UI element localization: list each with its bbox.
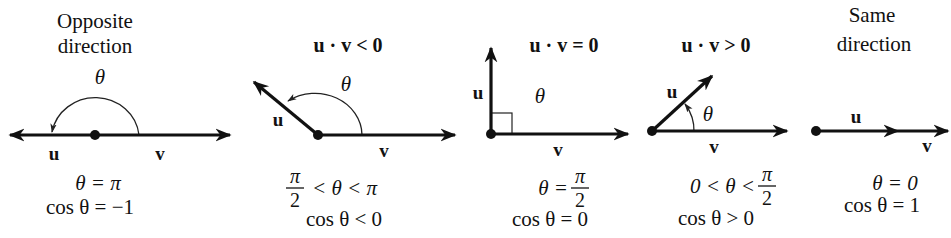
v-label: v [155, 143, 165, 164]
angle-arc [288, 93, 362, 135]
fraction-denominator: 2 [290, 189, 300, 211]
v-label: v [379, 140, 389, 161]
origin-dot [313, 130, 323, 140]
cosine-equation: cos θ = 0 [512, 207, 588, 231]
panel-heading-line2: direction [837, 32, 912, 56]
angle-arc [685, 104, 694, 132]
u-label: u [49, 143, 60, 164]
theta-label: θ [535, 84, 545, 108]
angle-between-vectors-diagram: Opposite direction θ u v θ = π cos θ = −… [0, 0, 951, 238]
dot-product-condition: u · v < 0 [313, 34, 382, 56]
v-label: v [922, 135, 932, 156]
dot-product-condition: u · v = 0 [529, 34, 598, 56]
angle-inequality: 0 < θ < [690, 174, 755, 198]
angle-arc [52, 98, 139, 135]
panel-obtuse-angle: u · v < 0 θ u v π 2 < θ < π cos θ < 0 [254, 34, 455, 231]
panel-opposite-direction: Opposite direction θ u v θ = π cos θ = −… [10, 9, 230, 219]
origin-dot [647, 126, 657, 136]
panel-right-angle: u · v = 0 θ u v θ = π 2 cos θ = 0 [473, 34, 628, 231]
angle-equation: θ = π [75, 171, 121, 195]
v-label: v [553, 139, 563, 160]
u-label: u [851, 106, 862, 127]
panel-heading-line2: direction [58, 34, 133, 58]
cosine-inequality: cos θ > 0 [678, 206, 754, 230]
cosine-equation: cos θ = −1 [46, 195, 134, 219]
fraction-denominator: 2 [762, 187, 772, 209]
fraction-numerator: π [762, 163, 773, 185]
v-label: v [709, 136, 719, 157]
theta-label: θ [341, 72, 351, 96]
origin-dot [486, 129, 496, 139]
cosine-equation: cos θ = 1 [844, 193, 920, 217]
panel-acute-angle: u · v > 0 θ u v 0 < θ < π 2 cos θ > 0 [647, 34, 787, 230]
theta-label: θ [95, 65, 105, 89]
vector-u-arrow [254, 82, 318, 135]
fraction-numerator: π [575, 165, 586, 187]
dot-product-condition: u · v > 0 [681, 34, 750, 56]
u-label: u [667, 81, 678, 102]
angle-inequality: < θ < π [312, 176, 377, 200]
angle-equation: θ = [538, 176, 568, 200]
fraction-numerator: π [290, 165, 301, 187]
u-label: u [273, 109, 284, 130]
panel-heading-line1: Same [849, 3, 896, 27]
u-label: u [473, 82, 484, 103]
panel-heading-line1: Opposite [57, 9, 133, 33]
origin-dot [811, 126, 821, 136]
panel-same-direction: Same direction u v θ = 0 cos θ = 1 [811, 3, 948, 217]
origin-dot [90, 130, 100, 140]
theta-label: θ [703, 102, 713, 126]
angle-equation: θ = 0 [872, 171, 918, 195]
cosine-inequality: cos θ < 0 [306, 207, 382, 231]
